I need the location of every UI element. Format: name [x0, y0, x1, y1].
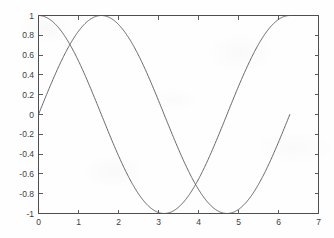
y-tick-label: 0 [29, 110, 34, 120]
y-tick-label: -0.8 [19, 189, 34, 199]
y-tick-label: -1 [26, 209, 34, 219]
figure-canvas: 01234567-1-0.8-0.6-0.4-0.200.20.40.60.81 [0, 0, 334, 238]
axis-frame [39, 16, 319, 214]
y-tick-label: -0.6 [19, 169, 34, 179]
y-tick-label: -0.2 [19, 129, 34, 139]
curve-sin [39, 16, 290, 214]
x-tick-label: 2 [116, 217, 121, 227]
y-tick-label: 0.4 [22, 70, 34, 80]
x-tick-label: 3 [156, 217, 161, 227]
x-tick-label: 5 [236, 217, 241, 227]
plot-svg: 01234567-1-0.8-0.6-0.4-0.200.20.40.60.81 [0, 0, 334, 238]
y-tick-label: 0.2 [22, 90, 34, 100]
y-tick-label: -0.4 [19, 149, 34, 159]
x-tick-label: 0 [36, 217, 41, 227]
x-tick-label: 4 [196, 217, 201, 227]
x-tick-label: 7 [316, 217, 321, 227]
y-tick-label: 0.8 [22, 30, 34, 40]
y-tick-label: 0.6 [22, 50, 34, 60]
x-tick-label: 1 [76, 217, 81, 227]
x-tick-label: 6 [276, 217, 281, 227]
y-tick-label: 1 [29, 11, 34, 21]
